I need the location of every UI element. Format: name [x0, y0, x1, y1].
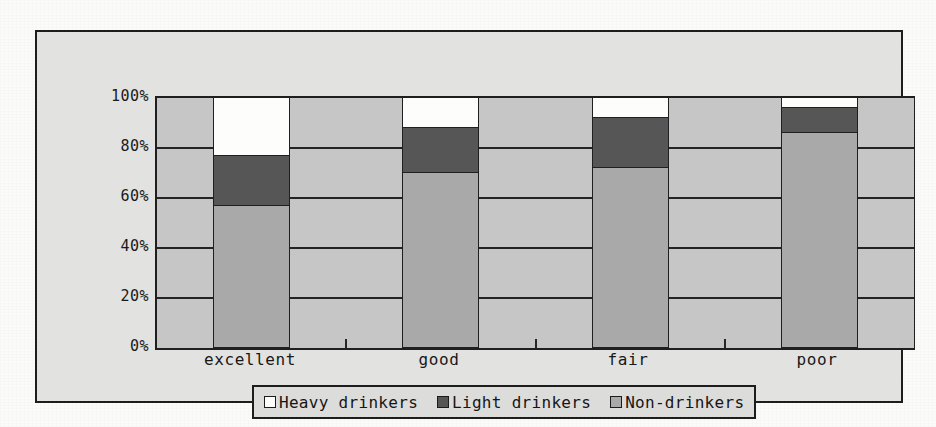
x-axis: excellentgoodfairpoor: [155, 350, 912, 376]
chart-frame: 100%80%60%40%20%0% excellentgoodfairpoor…: [35, 30, 903, 403]
legend-label: Non-drinkers: [625, 393, 744, 412]
y-axis-tick-label: 100%: [79, 87, 149, 105]
bar-segment: [402, 172, 479, 349]
bar-segment: [592, 167, 669, 349]
x-axis-category-label: fair: [533, 350, 723, 369]
bar-segment: [213, 204, 290, 348]
y-axis-tick-label: 60%: [79, 187, 149, 205]
legend-item: Light drinkers: [437, 393, 591, 412]
bar-segment: [402, 127, 479, 174]
x-axis-tick-mark: [345, 339, 347, 348]
legend-label: Heavy drinkers: [279, 393, 418, 412]
bar-segment: [781, 107, 858, 134]
x-axis-category-label: poor: [722, 350, 912, 369]
bar-segment: [213, 154, 290, 206]
legend-swatch-icon: [437, 396, 449, 408]
chart-legend: Heavy drinkersLight drinkersNon-drinkers: [252, 385, 756, 419]
y-axis-tick-label: 40%: [79, 237, 149, 255]
bar-group-poor: [781, 98, 858, 348]
x-axis-tick-mark: [535, 339, 537, 348]
y-axis-tick-label: 80%: [79, 137, 149, 155]
legend-item: Heavy drinkers: [264, 393, 418, 412]
legend-label: Light drinkers: [452, 393, 591, 412]
legend-swatch-icon: [264, 396, 276, 408]
bar-segment: [592, 97, 669, 119]
bar-group-fair: [592, 98, 669, 348]
bar-group-excellent: [213, 98, 290, 348]
bar-segment: [781, 132, 858, 349]
plot-area: [155, 96, 915, 350]
bar-segment: [592, 117, 669, 169]
x-axis-tick-mark: [724, 339, 726, 348]
bar-segment: [213, 97, 290, 156]
y-axis-tick-label: 20%: [79, 287, 149, 305]
y-axis: 100%80%60%40%20%0%: [75, 96, 149, 346]
x-axis-category-label: excellent: [155, 350, 345, 369]
legend-item: Non-drinkers: [610, 393, 744, 412]
legend-swatch-icon: [610, 396, 622, 408]
bar-group-good: [402, 98, 479, 348]
y-axis-tick-label: 0%: [79, 337, 149, 355]
bar-segment: [781, 97, 858, 109]
bar-segment: [402, 97, 479, 129]
x-axis-category-label: good: [344, 350, 534, 369]
